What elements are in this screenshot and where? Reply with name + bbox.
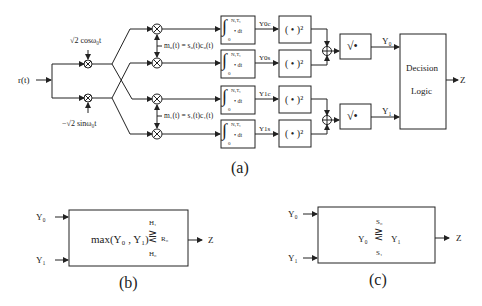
integral-icon: ∫ xyxy=(222,87,227,105)
integrator-block-1c: ∫ N₁T꜀ 0 • dt xyxy=(221,86,255,114)
sqrt-block-label: √• xyxy=(347,40,358,52)
output-y1-label: Y₁ xyxy=(382,107,392,116)
decision-output-label: Z xyxy=(460,76,466,85)
block-diagram-lines xyxy=(0,0,482,306)
output-z-label: Z xyxy=(456,234,462,243)
integral-icon: ∫ xyxy=(222,51,227,69)
output-label-y0c: Y0c xyxy=(259,21,271,28)
output-label-y0s: Y0s xyxy=(259,55,270,62)
output-z-label: Z xyxy=(208,236,214,245)
square-block-label: ( • )² xyxy=(285,129,303,139)
hypothesis-s1-label: S₁ xyxy=(376,250,382,257)
hypothesis-h1-label: H₁ xyxy=(149,220,157,227)
square-block-label: ( • )² xyxy=(285,95,303,105)
caption-b: (b) xyxy=(119,275,138,291)
input-y0-label: Y₀ xyxy=(288,210,298,219)
code-0-label: m₀(t) = s₀(t)c₀(t) xyxy=(164,42,213,50)
square-block-label: ( • )² xyxy=(285,25,303,35)
integrator-block-0c: ∫ N₁T꜀ 0 • dt xyxy=(221,16,255,44)
compare-symbol: ⋛ xyxy=(148,231,157,242)
carrier-sin-label: −√2 sinω₀t xyxy=(62,120,97,128)
sqrt-block-label: √• xyxy=(347,110,358,122)
code-1-label: m₁(t) = s₁(t)c₁(t) xyxy=(164,112,213,120)
caption-c: (c) xyxy=(369,272,387,288)
rule-rhs-y1: Y₁ xyxy=(391,235,401,244)
input-y0-label: Y₀ xyxy=(36,213,46,222)
hypothesis-h0-label: H₀ xyxy=(149,251,157,258)
input-signal-label: r(t) xyxy=(18,76,30,85)
carrier-cos-label: √2 cosω₀t xyxy=(70,37,101,45)
integral-icon: ∫ xyxy=(222,17,227,35)
threshold-r0-label: R₀ xyxy=(161,236,168,243)
hypothesis-s0-label: S₀ xyxy=(376,219,382,226)
square-block-label: ( • )² xyxy=(285,59,303,69)
input-y1-label: Y₁ xyxy=(36,256,46,265)
output-label-y1s: Y1s xyxy=(259,126,270,133)
compare-symbol: ⋛ xyxy=(374,229,383,240)
integral-icon: ∫ xyxy=(222,121,227,139)
decision-logic-line-1: Decision xyxy=(406,64,438,73)
integrator-block-1s: ∫ N₁T꜀ 0 • dt xyxy=(221,120,255,148)
output-label-y1c: Y1c xyxy=(259,91,271,98)
decision-logic-line-2: Logic xyxy=(411,87,432,96)
input-y1-label: Y₁ xyxy=(288,254,298,263)
integrator-block-0s: ∫ N₁T꜀ 0 • dt xyxy=(221,50,255,78)
output-y0-label: Y₀ xyxy=(382,37,392,46)
caption-a: (a) xyxy=(231,160,249,176)
decision-rule-expression: max(Y₀ , Y₁) xyxy=(91,234,149,245)
rule-lhs-y0: Y₀ xyxy=(358,235,368,244)
